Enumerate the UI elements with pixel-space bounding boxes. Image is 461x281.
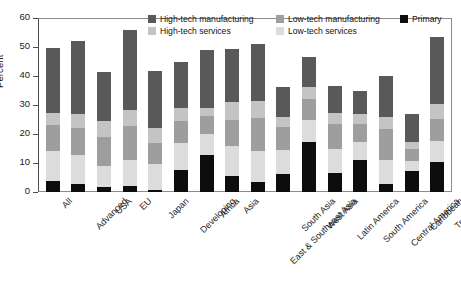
legend-item-low-tech-services[interactable]: Low-tech services: [276, 26, 400, 36]
bar-segment[interactable]: [225, 146, 239, 176]
bar-segment[interactable]: [328, 149, 342, 174]
bar-segment[interactable]: [71, 128, 85, 155]
bar-segment[interactable]: [225, 102, 239, 120]
bar-segment[interactable]: [251, 101, 265, 118]
bar-segment[interactable]: [225, 176, 239, 192]
bar-segment[interactable]: [379, 117, 393, 129]
bar-segment[interactable]: [123, 110, 137, 127]
bar-column[interactable]: [245, 18, 271, 192]
bar-column[interactable]: [91, 18, 117, 192]
bar-segment[interactable]: [405, 149, 419, 161]
stacked-bar[interactable]: [200, 50, 214, 192]
bar-segment[interactable]: [302, 142, 316, 192]
stacked-bar[interactable]: [353, 91, 367, 192]
stacked-bar[interactable]: [302, 57, 316, 192]
bar-segment[interactable]: [71, 41, 85, 115]
bar-column[interactable]: [271, 18, 297, 192]
bar-column[interactable]: [117, 18, 143, 192]
bar-segment[interactable]: [148, 128, 162, 143]
bar-segment[interactable]: [200, 134, 214, 155]
stacked-bar[interactable]: [97, 72, 111, 192]
stacked-bar[interactable]: [148, 71, 162, 192]
bar-segment[interactable]: [251, 182, 265, 192]
bar-segment[interactable]: [276, 174, 290, 192]
stacked-bar[interactable]: [71, 41, 85, 192]
bar-segment[interactable]: [200, 50, 214, 109]
bar-segment[interactable]: [123, 160, 137, 186]
stacked-bar[interactable]: [174, 62, 188, 192]
legend-item-high-tech-manufacturing[interactable]: High-tech manufacturing: [148, 14, 276, 24]
bar-segment[interactable]: [200, 116, 214, 134]
bar-segment[interactable]: [405, 114, 419, 142]
bar-segment[interactable]: [276, 127, 290, 150]
bar-segment[interactable]: [430, 37, 444, 104]
stacked-bar[interactable]: [123, 30, 137, 192]
bar-segment[interactable]: [328, 173, 342, 192]
legend-item-high-tech-services[interactable]: High-tech services: [148, 26, 276, 36]
bar-column[interactable]: [40, 18, 66, 192]
stacked-bar[interactable]: [276, 87, 290, 192]
bar-segment[interactable]: [46, 125, 60, 151]
bar-segment[interactable]: [276, 87, 290, 117]
bar-segment[interactable]: [276, 150, 290, 174]
bar-segment[interactable]: [174, 121, 188, 143]
bar-segment[interactable]: [353, 114, 367, 124]
bar-segment[interactable]: [430, 119, 444, 140]
bar-segment[interactable]: [174, 62, 188, 109]
bar-column[interactable]: [399, 18, 425, 192]
bar-segment[interactable]: [251, 44, 265, 101]
bar-segment[interactable]: [174, 170, 188, 192]
bar-segment[interactable]: [46, 181, 60, 192]
bar-segment[interactable]: [97, 121, 111, 137]
bar-segment[interactable]: [353, 91, 367, 114]
stacked-bar[interactable]: [405, 114, 419, 192]
bar-segment[interactable]: [251, 118, 265, 150]
stacked-bar[interactable]: [225, 49, 239, 192]
bar-segment[interactable]: [430, 141, 444, 162]
bar-segment[interactable]: [71, 184, 85, 192]
bar-segment[interactable]: [379, 129, 393, 159]
bar-segment[interactable]: [225, 49, 239, 102]
bar-segment[interactable]: [302, 57, 316, 87]
bar-column[interactable]: [143, 18, 169, 192]
bar-segment[interactable]: [353, 142, 367, 161]
bar-segment[interactable]: [200, 155, 214, 192]
bar-column[interactable]: [66, 18, 92, 192]
bar-column[interactable]: [219, 18, 245, 192]
bar-segment[interactable]: [71, 155, 85, 184]
bar-segment[interactable]: [97, 137, 111, 166]
bar-segment[interactable]: [405, 161, 419, 171]
bar-segment[interactable]: [328, 124, 342, 148]
bar-segment[interactable]: [97, 166, 111, 187]
bar-segment[interactable]: [46, 113, 60, 125]
bar-segment[interactable]: [148, 143, 162, 164]
bar-segment[interactable]: [97, 72, 111, 121]
bar-segment[interactable]: [405, 142, 419, 149]
bar-column[interactable]: [296, 18, 322, 192]
bar-segment[interactable]: [148, 71, 162, 127]
bar-segment[interactable]: [276, 117, 290, 127]
stacked-bar[interactable]: [251, 44, 265, 192]
bar-column[interactable]: [168, 18, 194, 192]
legend-item-primary[interactable]: Primary: [400, 14, 446, 24]
bar-segment[interactable]: [328, 86, 342, 112]
bar-segment[interactable]: [353, 160, 367, 192]
bar-segment[interactable]: [353, 124, 367, 142]
bar-segment[interactable]: [405, 171, 419, 192]
bar-segment[interactable]: [430, 104, 444, 119]
bar-segment[interactable]: [174, 143, 188, 171]
bar-segment[interactable]: [430, 162, 444, 192]
bar-segment[interactable]: [379, 160, 393, 185]
bar-segment[interactable]: [71, 114, 85, 128]
bar-segment[interactable]: [302, 120, 316, 143]
bar-segment[interactable]: [379, 76, 393, 117]
bar-segment[interactable]: [174, 108, 188, 120]
bar-segment[interactable]: [302, 87, 316, 99]
bar-column[interactable]: [322, 18, 348, 192]
stacked-bar[interactable]: [328, 86, 342, 192]
bar-segment[interactable]: [302, 99, 316, 119]
bar-segment[interactable]: [46, 151, 60, 181]
bar-column[interactable]: [194, 18, 220, 192]
bar-segment[interactable]: [148, 164, 162, 190]
bar-segment[interactable]: [123, 126, 137, 160]
